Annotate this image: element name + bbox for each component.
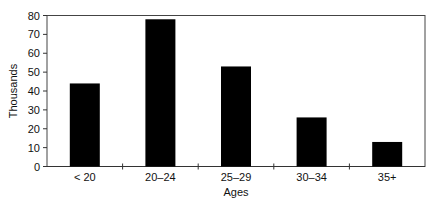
bar-chart: 01020304050607080 < 2020–2425–2930–3435+… xyxy=(0,0,433,207)
y-tick-label: 10 xyxy=(28,142,40,154)
x-tick-label: 20–24 xyxy=(145,171,176,183)
x-axis-title: Ages xyxy=(223,186,249,198)
x-tick-label: 30–34 xyxy=(296,171,327,183)
x-tick-label: < 20 xyxy=(74,171,96,183)
bar xyxy=(70,83,100,166)
y-axis-title: Thousands xyxy=(7,63,19,118)
y-axis: 01020304050607080 xyxy=(28,10,47,173)
x-tick-label: 35+ xyxy=(378,171,397,183)
bar xyxy=(372,142,402,167)
x-tick-label: 25–29 xyxy=(221,171,252,183)
y-tick-label: 30 xyxy=(28,104,40,116)
y-tick-label: 20 xyxy=(28,123,40,135)
y-tick-label: 70 xyxy=(28,28,40,40)
bar xyxy=(297,117,327,166)
y-tick-label: 0 xyxy=(34,161,40,173)
y-tick-label: 50 xyxy=(28,66,40,78)
y-tick-label: 60 xyxy=(28,47,40,59)
bars xyxy=(70,19,402,166)
y-tick-label: 40 xyxy=(28,85,40,97)
bar xyxy=(145,19,175,166)
y-tick-label: 80 xyxy=(28,10,40,22)
bar xyxy=(221,66,251,166)
